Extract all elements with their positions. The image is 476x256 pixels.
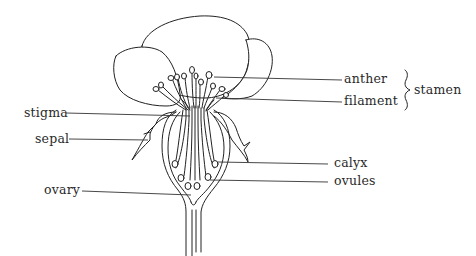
label-sepal: sepal [35, 132, 69, 146]
pistil [176, 106, 214, 180]
flower-diagram: anther filament stamen stigma sepal caly… [0, 0, 476, 256]
label-calyx: calyx [334, 156, 368, 170]
label-stigma: stigma [24, 106, 68, 120]
flower-illustration [0, 0, 476, 256]
label-anther: anther [344, 72, 387, 86]
label-ovules: ovules [334, 174, 376, 188]
label-stamen: stamen [414, 83, 461, 97]
label-ovary: ovary [44, 183, 80, 197]
label-filament: filament [344, 94, 398, 108]
